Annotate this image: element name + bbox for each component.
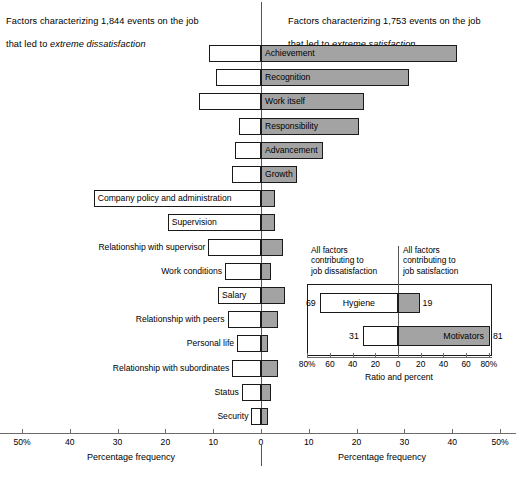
bar-row: Growth (0, 166, 516, 183)
left-header-line1: Factors characterizing 1,844 events on t… (6, 16, 199, 26)
bar-category-label: Work conditions (0, 263, 222, 280)
dissatisfaction-bar[interactable] (209, 45, 261, 62)
satisfaction-bar[interactable] (261, 190, 275, 207)
satisfaction-bar[interactable] (261, 360, 278, 377)
dissatisfaction-bar[interactable] (232, 166, 261, 183)
x-axis-tick (404, 429, 405, 434)
x-axis-tick-label: 30 (113, 437, 123, 447)
inset-caption-left: All factors contributing to job dissatis… (311, 245, 397, 276)
chart-canvas: Factors characterizing 1,844 events on t… (0, 0, 516, 477)
inset-value-left: 69 (303, 293, 316, 313)
inset-x-axis-tick (375, 353, 376, 357)
x-axis-tick-label: 10 (304, 437, 314, 447)
bar-category-label: Salary (222, 287, 246, 304)
axis-center-stub (261, 444, 262, 466)
inset-dissatisfaction-bar[interactable] (363, 326, 398, 346)
inset-x-axis-tick (398, 353, 399, 357)
dissatisfaction-bar[interactable] (199, 93, 261, 110)
x-axis-tick-label: 30 (400, 437, 410, 447)
bar-category-label: Work itself (265, 93, 305, 110)
bar-row: Recognition (0, 69, 516, 86)
satisfaction-bar[interactable] (261, 335, 268, 352)
bar-category-label: Growth (265, 166, 293, 183)
inset-x-axis-tick (443, 353, 444, 357)
x-axis-tick-label: 40 (65, 437, 75, 447)
dissatisfaction-bar[interactable] (235, 142, 261, 159)
inset-value-left: 31 (303, 326, 359, 346)
inset-x-axis-tick-label: 80% (299, 359, 316, 369)
bar-category-label: Status (0, 384, 239, 401)
x-axis-tick-label: 10 (208, 437, 218, 447)
bar-row: Responsibility (0, 118, 516, 135)
satisfaction-bar[interactable] (261, 214, 275, 231)
dissatisfaction-bar[interactable] (251, 408, 261, 425)
inset-x-axis-tick-label: 20 (416, 359, 425, 369)
bar-category-label: Advancement (265, 142, 318, 159)
bar-row: Work itself (0, 93, 516, 110)
x-axis-tick (261, 429, 262, 434)
bar-row: Company policy and administration (0, 190, 516, 207)
inset-bar-label: Motivators (398, 326, 484, 346)
inset-x-axis-tick (489, 353, 490, 357)
dissatisfaction-bar[interactable] (228, 311, 261, 328)
satisfaction-bar[interactable] (261, 263, 271, 280)
inset-bar-row: Motivators3181 (303, 326, 499, 346)
inset-x-axis-tick (330, 353, 331, 357)
inset-bar-label: Hygiene (320, 293, 398, 313)
dissatisfaction-bar[interactable] (208, 239, 261, 256)
x-axis-tick (500, 429, 501, 434)
bar-row: Security (0, 408, 516, 425)
satisfaction-bar[interactable] (261, 239, 283, 256)
dissatisfaction-bar[interactable] (232, 360, 261, 377)
inset-x-axis-tick-label: 0 (396, 359, 401, 369)
inset-x-axis-tick-label: 60 (325, 359, 334, 369)
dissatisfaction-bar[interactable] (216, 69, 261, 86)
inset-bar-row: Hygiene6919 (303, 293, 499, 313)
x-axis-tick (22, 429, 23, 434)
bar-category-label: Personal life (0, 335, 234, 352)
satisfaction-bar[interactable] (261, 384, 271, 401)
dissatisfaction-bar[interactable] (239, 118, 261, 135)
bar-row: Advancement (0, 142, 516, 159)
bar-category-label: Relationship with subordinates (0, 360, 229, 377)
inset-x-axis-tick-label: 40 (348, 359, 357, 369)
x-axis-title-left: Percentage frequency (87, 452, 175, 462)
x-axis-tick (213, 429, 214, 434)
dissatisfaction-bar[interactable] (242, 384, 261, 401)
bar-category-label: Security (0, 408, 248, 425)
inset-x-axis-tick (307, 353, 308, 357)
x-axis-tick (357, 429, 358, 434)
x-axis-title-right: Percentage frequency (338, 452, 426, 462)
x-axis-tick-label: 50% (491, 437, 508, 447)
bar-category-label: Supervision (172, 214, 217, 231)
dissatisfaction-bar[interactable] (225, 263, 261, 280)
bar-row: Status (0, 384, 516, 401)
x-axis-tick (452, 429, 453, 434)
dissatisfaction-bar[interactable] (237, 335, 261, 352)
x-axis-tick (118, 429, 119, 434)
inset-axis-title: Ratio and percent (365, 372, 433, 382)
x-axis-tick-label: 40 (447, 437, 457, 447)
inset-value-right: 19 (423, 293, 433, 313)
inset-x-axis-tick-label: 80% (480, 359, 497, 369)
inset-caption-right: All factors contributing to job satisfac… (403, 245, 493, 276)
bar-category-label: Achievement (265, 45, 315, 62)
inset-x-axis-tick (421, 353, 422, 357)
bar-row: Supervision (0, 214, 516, 231)
satisfaction-bar[interactable] (261, 287, 285, 304)
satisfaction-bar[interactable] (261, 408, 268, 425)
inset-x-axis-tick-label: 60 (461, 359, 470, 369)
inset-summary-chart: All factors contributing to job dissatis… (303, 244, 499, 366)
bar-category-label: Company policy and administration (98, 190, 232, 207)
inset-satisfaction-bar[interactable] (398, 293, 420, 313)
bar-category-label: Relationship with peers (0, 311, 225, 328)
inset-x-axis-tick-label: 40 (439, 359, 448, 369)
satisfaction-bar[interactable] (261, 311, 278, 328)
x-axis-tick-label: 20 (352, 437, 362, 447)
right-header-line1: Factors characterizing 1,753 events on t… (288, 16, 481, 26)
bar-category-label: Recognition (265, 69, 310, 86)
zero-axis-line (261, 2, 262, 420)
inset-x-axis-line (307, 357, 492, 358)
inset-value-right: 81 (493, 326, 503, 346)
bar-row: Achievement (0, 45, 516, 62)
